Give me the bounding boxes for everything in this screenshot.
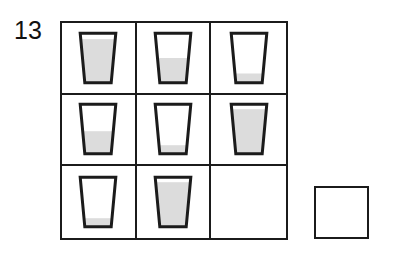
matrix-cell-row1-col3[interactable]: [211, 23, 286, 95]
glass-icon: [152, 174, 194, 230]
glass-icon: [77, 101, 119, 157]
matrix-cell-row2-col3[interactable]: [211, 95, 286, 167]
glass-icon: [152, 101, 194, 157]
glass-row3-col1: [77, 174, 119, 230]
matrix-cell-row3-col3-missing[interactable]: [211, 166, 286, 238]
glass-row2-col3: [228, 101, 270, 157]
matrix-cell-row3-col1[interactable]: [62, 166, 137, 238]
matrix-cell-row2-col2[interactable]: [137, 95, 212, 167]
glass-icon: [77, 30, 119, 86]
matrix-grid: [60, 21, 288, 240]
glass-icon: [77, 174, 119, 230]
glass-row1-col3: [228, 30, 270, 86]
matrix-cell-row1-col1[interactable]: [62, 23, 137, 95]
glass-row3-col2: [152, 174, 194, 230]
glass-icon: [152, 30, 194, 86]
matrix-cell-row3-col2[interactable]: [137, 166, 212, 238]
answer-box[interactable]: [314, 186, 369, 239]
glass-row2-col2: [152, 101, 194, 157]
puzzle-canvas: 13: [0, 0, 402, 257]
glass-row2-col1: [77, 101, 119, 157]
matrix-cell-row2-col1[interactable]: [62, 95, 137, 167]
glass-row1-col1: [77, 30, 119, 86]
item-number-label: 13: [14, 18, 42, 43]
matrix-cell-row1-col2[interactable]: [137, 23, 212, 95]
glass-icon: [228, 101, 270, 157]
glass-icon: [228, 30, 270, 86]
glass-row1-col2: [152, 30, 194, 86]
